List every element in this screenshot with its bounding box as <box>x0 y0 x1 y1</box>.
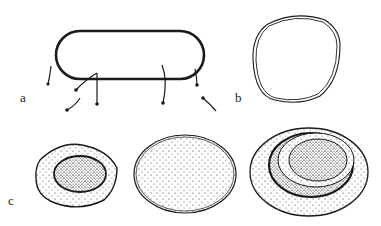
panel-b-cell-wall <box>253 16 340 102</box>
panel-label-a: a <box>20 90 26 106</box>
panel-a-rod-cell <box>46 31 216 112</box>
flagella-knobs <box>46 82 204 111</box>
panel-label-b: b <box>235 90 242 106</box>
panel-c-cell-3 <box>250 128 368 216</box>
panel-c-cell-1 <box>36 144 117 207</box>
figure-canvas <box>0 0 381 226</box>
flagella <box>48 65 216 111</box>
panel-label-c: c <box>8 193 14 209</box>
panel-c-cell-2 <box>134 135 236 213</box>
